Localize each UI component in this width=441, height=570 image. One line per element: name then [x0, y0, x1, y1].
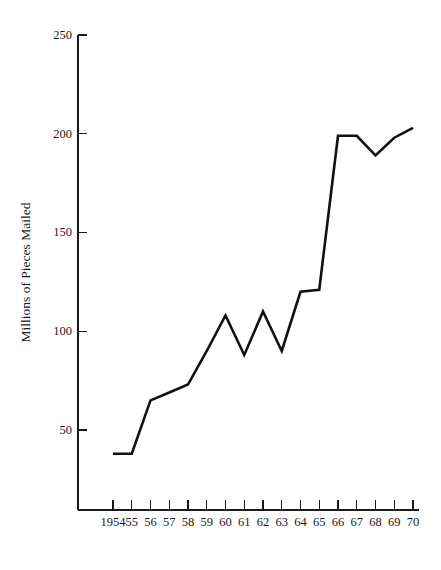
y-axis-title-text: Millions of Pieces Mailed [18, 202, 33, 342]
series-pieces-mailed [113, 128, 413, 454]
x-axis-tick-labels: 195455565758596061626364656667686970 [101, 515, 420, 529]
y-tick-label-200: 200 [53, 127, 72, 141]
x-tick-label-62: 62 [257, 515, 270, 529]
data-series-line [113, 128, 413, 454]
x-tick-label-61: 61 [238, 515, 251, 529]
x-tick-label-67: 67 [351, 515, 364, 529]
x-tick-label-65: 65 [313, 515, 326, 529]
x-tick-label-57: 57 [163, 515, 176, 529]
x-tick-label-64: 64 [294, 515, 307, 529]
x-tick-label-63: 63 [276, 515, 289, 529]
y-axis-ticks [78, 35, 87, 430]
y-tick-label-50: 50 [60, 423, 73, 437]
x-tick-label-70: 70 [407, 515, 420, 529]
y-tick-label-100: 100 [53, 324, 72, 338]
x-tick-label-56: 56 [144, 515, 157, 529]
x-tick-label-1954: 1954 [101, 515, 127, 529]
y-axis-tick-labels: 25020015010050 [53, 28, 72, 437]
x-tick-label-60: 60 [219, 515, 232, 529]
x-tick-label-59: 59 [201, 515, 214, 529]
x-tick-label-58: 58 [182, 515, 195, 529]
line-chart: 25020015010050 1954555657585960616263646… [0, 0, 441, 570]
x-tick-label-68: 68 [369, 515, 382, 529]
x-axis-ticks [113, 500, 413, 510]
chart-figure: 25020015010050 1954555657585960616263646… [0, 0, 441, 570]
y-tick-label-150: 150 [53, 225, 72, 239]
x-tick-label-69: 69 [388, 515, 401, 529]
y-tick-label-250: 250 [53, 28, 72, 42]
y-axis-title: Millions of Pieces Mailed [18, 202, 33, 342]
x-tick-label-55: 55 [126, 515, 139, 529]
x-tick-label-66: 66 [332, 515, 345, 529]
